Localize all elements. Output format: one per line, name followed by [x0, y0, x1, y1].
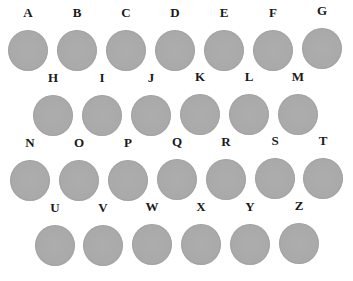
sample-label: S	[253, 133, 297, 149]
sample-item: I	[80, 70, 124, 140]
sample-item: O	[57, 135, 101, 205]
sample-disc	[278, 94, 318, 135]
sample-disc	[180, 94, 220, 135]
sample-label: X	[179, 199, 223, 215]
sample-disc	[82, 95, 122, 136]
sample-item: Z	[277, 198, 321, 268]
sample-label: G	[300, 3, 344, 19]
sample-label: T	[301, 133, 345, 149]
sample-item: L	[227, 69, 271, 139]
sample-disc	[57, 30, 97, 71]
sample-item: A	[6, 5, 50, 75]
sample-disc	[35, 225, 75, 266]
sample-item: E	[202, 5, 246, 75]
sample-disc	[10, 160, 50, 201]
sample-item: F	[251, 5, 295, 75]
sample-disc	[279, 223, 319, 264]
sample-item: K	[178, 69, 222, 139]
sample-label: C	[104, 5, 148, 21]
sample-disc	[204, 30, 244, 71]
sample-item: S	[253, 133, 297, 203]
sample-label: L	[227, 69, 271, 85]
sample-item: J	[129, 70, 173, 140]
sample-label: I	[80, 70, 124, 86]
sample-label: V	[81, 200, 125, 216]
sample-disc	[106, 30, 146, 71]
sample-item: M	[276, 69, 320, 139]
sample-label: H	[31, 70, 75, 86]
sample-label: D	[153, 5, 197, 21]
sample-disc	[8, 30, 48, 71]
sample-label: K	[178, 69, 222, 85]
sample-grid: ABCDEFGHIJKLMNOPQRSTUVWXYZ	[0, 0, 353, 281]
sample-disc	[253, 30, 293, 71]
sample-item: D	[153, 5, 197, 75]
sample-label: R	[204, 134, 248, 150]
sample-disc	[59, 160, 99, 201]
sample-label: J	[129, 70, 173, 86]
sample-disc	[181, 224, 221, 265]
sample-item: Q	[155, 134, 199, 204]
sample-item: R	[204, 134, 248, 204]
sample-item: V	[81, 200, 125, 270]
sample-label: N	[8, 135, 52, 151]
sample-item: N	[8, 135, 52, 205]
sample-disc	[83, 225, 123, 266]
sample-label: E	[202, 5, 246, 21]
sample-item: Y	[228, 199, 272, 269]
sample-label: F	[251, 5, 295, 21]
sample-label: P	[106, 135, 150, 151]
sample-disc	[157, 159, 197, 200]
sample-label: U	[33, 200, 77, 216]
sample-label: M	[276, 69, 320, 85]
sample-item: G	[300, 3, 344, 73]
sample-label: W	[130, 199, 174, 215]
sample-disc	[33, 95, 73, 136]
sample-disc	[108, 160, 148, 201]
sample-item: P	[106, 135, 150, 205]
sample-disc	[229, 94, 269, 135]
sample-disc	[255, 158, 295, 199]
sample-disc	[131, 95, 171, 136]
sample-item: W	[130, 199, 174, 269]
sample-label: Z	[277, 198, 321, 214]
sample-item: B	[55, 5, 99, 75]
sample-label: Y	[228, 199, 272, 215]
sample-disc	[230, 224, 270, 265]
sample-disc	[206, 159, 246, 200]
sample-item: H	[31, 70, 75, 140]
sample-disc	[155, 30, 195, 71]
sample-disc	[302, 28, 342, 69]
sample-item: U	[33, 200, 77, 270]
sample-item: T	[301, 133, 345, 203]
sample-item: C	[104, 5, 148, 75]
sample-disc	[132, 224, 172, 265]
sample-disc	[303, 158, 343, 199]
sample-label: A	[6, 5, 50, 21]
sample-label: Q	[155, 134, 199, 150]
sample-item: X	[179, 199, 223, 269]
sample-label: B	[55, 5, 99, 21]
sample-label: O	[57, 135, 101, 151]
